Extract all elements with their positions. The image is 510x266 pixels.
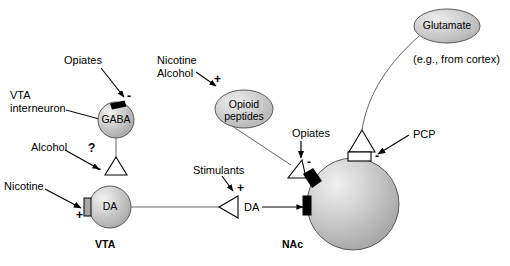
cell-label-da: DA bbox=[95, 201, 125, 212]
sign-pcp: - bbox=[375, 151, 379, 161]
label-opiates-vta: Opiates bbox=[64, 54, 102, 66]
terminal-da-axon bbox=[219, 196, 238, 218]
sign-opiates-gaba: - bbox=[127, 91, 131, 101]
axon-opioid-to-nac bbox=[232, 126, 291, 165]
label-alcohol-question: ? bbox=[88, 141, 95, 155]
cell-label-glutamate: Glutamate bbox=[418, 20, 476, 31]
sign-alcohol-da: - bbox=[97, 164, 101, 174]
terminal-gaba-onto-da bbox=[105, 157, 127, 175]
cell-nac-neuron bbox=[307, 158, 399, 250]
receptor-pcp-nmda-nac bbox=[348, 152, 371, 161]
label-vta-interneuron-line2: interneuron bbox=[10, 102, 66, 114]
label-alcohol-vta: Alcohol bbox=[31, 141, 67, 153]
drug-action-diagram: Opiates VTA interneuron Alcohol ? Nicoti… bbox=[0, 0, 510, 266]
label-nicotine-opioid: Nicotine bbox=[157, 54, 197, 66]
arrow-pcp-to-receptor bbox=[378, 135, 409, 154]
cell-label-gaba: GABA bbox=[98, 114, 134, 125]
region-label-vta: VTA bbox=[95, 238, 115, 250]
receptor-nicotine-da bbox=[84, 198, 91, 216]
axon-glutamate-to-nac bbox=[362, 36, 419, 130]
label-nicotine-vta: Nicotine bbox=[4, 180, 44, 192]
label-vta-interneuron-line1: VTA bbox=[10, 89, 31, 101]
arrow-opiates-to-gaba bbox=[101, 68, 124, 97]
label-opiates-nac: Opiates bbox=[292, 127, 330, 139]
label-alcohol-opioid: Alcohol bbox=[157, 67, 193, 79]
terminal-opioid-nac bbox=[288, 160, 306, 178]
label-pcp: PCP bbox=[413, 128, 436, 140]
region-label-nac: NAc bbox=[282, 238, 303, 250]
cell-label-opioid-line2: peptides bbox=[217, 111, 271, 122]
label-glutamate-source: (e.g., from cortex) bbox=[413, 53, 500, 65]
label-stimulants: Stimulants bbox=[193, 164, 244, 176]
arrow-stimulants-to-terminal bbox=[222, 176, 233, 191]
sign-opiates-nac: - bbox=[307, 157, 311, 167]
receptor-da-nac bbox=[303, 196, 311, 215]
sign-stimulants: + bbox=[237, 183, 244, 193]
arrow-nicotine-to-da bbox=[45, 189, 81, 208]
sign-nicotine-da: + bbox=[76, 210, 83, 220]
arrow-nicotine-alcohol-to-opioid bbox=[196, 72, 216, 86]
sign-nicotine-alcohol-opioid: + bbox=[214, 74, 221, 84]
cell-label-opioid-line1: Opioid bbox=[220, 99, 268, 110]
label-da-transmitter: DA bbox=[244, 201, 259, 213]
terminal-glutamate-nac bbox=[349, 130, 375, 152]
